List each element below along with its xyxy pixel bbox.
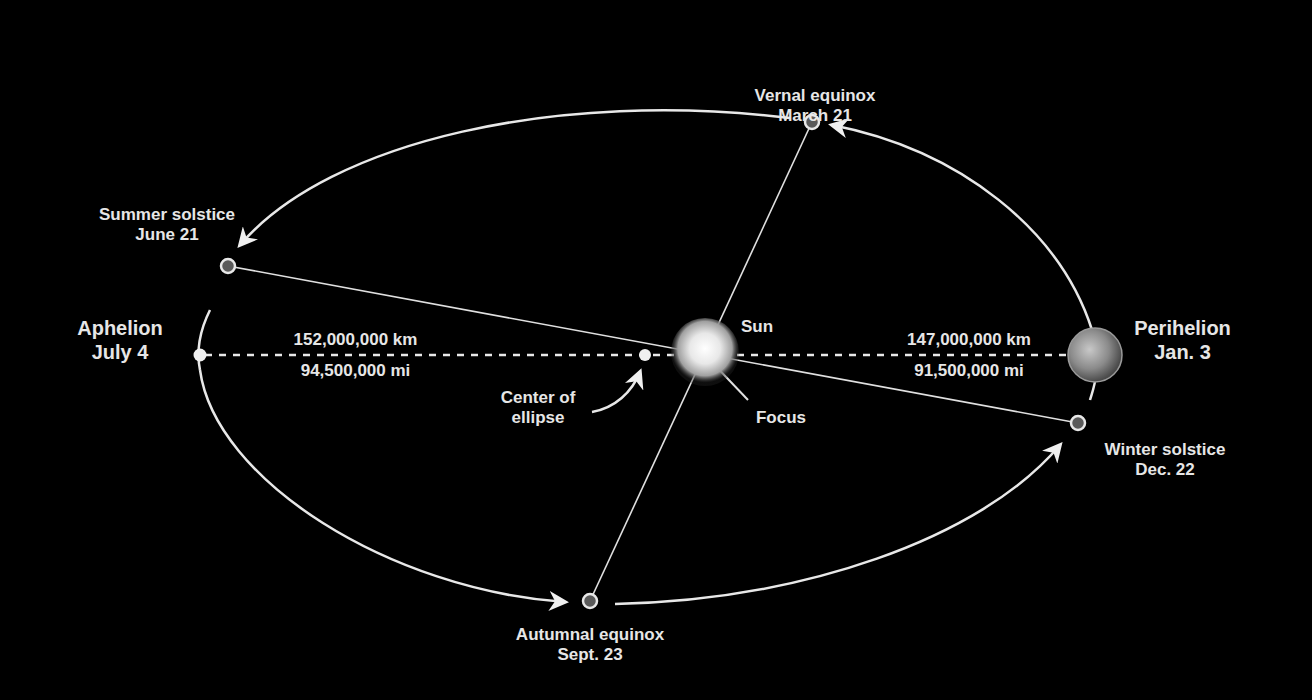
- summer-date: June 21: [72, 225, 262, 245]
- focus-label: Focus: [748, 408, 814, 428]
- autumnal-name: Autumnal equinox: [470, 625, 710, 645]
- center-line2: ellipse: [478, 408, 598, 428]
- center-of-ellipse-label: Center of ellipse: [478, 388, 598, 429]
- autumnal-date: Sept. 23: [470, 645, 710, 665]
- summer-name: Summer solstice: [72, 205, 262, 225]
- sun-label: Sun: [737, 317, 777, 337]
- perihelion-distance-mi: 91,500,000 mi: [884, 361, 1054, 381]
- summer-solstice-marker: [221, 259, 235, 273]
- vernal-date: March 21: [745, 106, 885, 126]
- center-line1: Center of: [478, 388, 598, 408]
- autumnal-equinox-marker: [583, 594, 597, 608]
- perihelion-distance-km: 147,000,000 km: [884, 330, 1054, 350]
- orbit-diagram: [0, 0, 1312, 700]
- aphelion-distance-mi: 94,500,000 mi: [268, 361, 443, 381]
- perihelion-date: Jan. 3: [1120, 340, 1245, 364]
- sun-icon: [671, 318, 739, 386]
- perihelion-label: Perihelion Jan. 3: [1120, 316, 1245, 364]
- center-pointer: [592, 372, 640, 412]
- aphelion-name: Aphelion: [70, 316, 170, 340]
- aphelion-distance-km: 152,000,000 km: [268, 330, 443, 350]
- vernal-equinox-label: Vernal equinox March 21: [745, 86, 885, 127]
- center-dot: [639, 349, 651, 361]
- aphelion-date: July 4: [70, 340, 170, 364]
- winter-solstice-marker: [1071, 416, 1085, 430]
- aphelion-label: Aphelion July 4: [70, 316, 170, 364]
- perihelion-name: Perihelion: [1120, 316, 1245, 340]
- summer-solstice-label: Summer solstice June 21: [72, 205, 262, 246]
- autumnal-equinox-label: Autumnal equinox Sept. 23: [470, 625, 710, 666]
- vernal-name: Vernal equinox: [745, 86, 885, 106]
- aphelion-dot: [194, 349, 207, 362]
- winter-date: Dec. 22: [1085, 460, 1245, 480]
- earth-perihelion-icon: [1068, 328, 1122, 382]
- winter-solstice-label: Winter solstice Dec. 22: [1085, 440, 1245, 481]
- winter-name: Winter solstice: [1085, 440, 1245, 460]
